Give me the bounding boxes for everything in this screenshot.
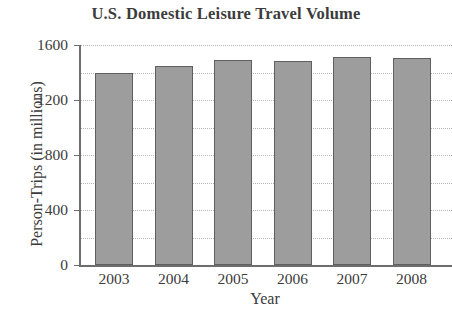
y-axis-title: Person-Trips (in millions) <box>28 39 46 289</box>
bar <box>214 60 252 265</box>
x-axis-tick-label: 2007 <box>325 270 379 288</box>
x-axis-line <box>79 265 452 267</box>
y-axis-tick-label: 400 <box>22 201 68 219</box>
y-axis-tick-label: 800 <box>22 146 68 164</box>
y-axis-tick-label: 1600 <box>22 36 68 54</box>
y-axis-line <box>79 45 81 266</box>
x-axis-title: Year <box>85 290 445 308</box>
bar <box>155 66 193 265</box>
x-axis-tick-label: 2005 <box>206 270 260 288</box>
gridline <box>79 45 452 46</box>
x-axis-tick-label: 2004 <box>147 270 201 288</box>
plot-area <box>79 45 452 265</box>
x-axis-tick-label: 2008 <box>385 270 439 288</box>
chart-container: U.S. Domestic Leisure Travel Volume Pers… <box>0 0 452 314</box>
x-axis-tick-label: 2006 <box>266 270 320 288</box>
chart-title: U.S. Domestic Leisure Travel Volume <box>0 4 452 24</box>
bar <box>274 61 312 265</box>
bar <box>393 58 431 265</box>
bar <box>95 73 133 266</box>
y-axis-tick-label: 1200 <box>22 91 68 109</box>
y-axis-tick-label: 0 <box>22 256 68 274</box>
x-axis-tick-label: 2003 <box>87 270 141 288</box>
bar <box>333 57 371 265</box>
